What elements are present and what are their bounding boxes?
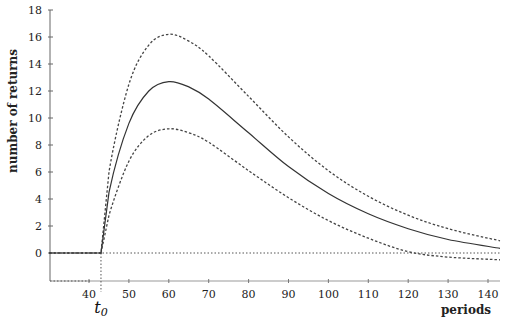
series xyxy=(49,34,500,260)
x-tick-label: 50 xyxy=(122,288,136,301)
expected-returns-curve xyxy=(49,81,500,253)
x-tick-label: 130 xyxy=(438,288,459,301)
y-tick-label: 12 xyxy=(28,85,42,98)
x-tick-label: 70 xyxy=(202,288,216,301)
x-tick-label: 100 xyxy=(318,288,339,301)
x-tick-label: 60 xyxy=(162,288,176,301)
t0-label: t0 xyxy=(94,298,107,319)
ticks: 0246810121416184050607080901001101201301… xyxy=(28,4,499,301)
y-tick-label: 6 xyxy=(35,166,42,179)
x-axis-title: periods xyxy=(441,303,491,317)
x-tick-label: 90 xyxy=(282,288,296,301)
axes xyxy=(50,10,500,292)
y-tick-label: 10 xyxy=(28,112,42,125)
upper-bound-curve xyxy=(49,34,500,253)
y-tick-label: 14 xyxy=(28,58,42,71)
y-axis-title: number of returns xyxy=(6,49,20,173)
y-tick-label: 0 xyxy=(35,247,42,260)
returns-chart: 0246810121416184050607080901001101201301… xyxy=(0,0,514,320)
y-tick-label: 4 xyxy=(35,193,42,206)
x-tick-label: 80 xyxy=(242,288,256,301)
t0-subscript: 0 xyxy=(101,306,108,319)
x-tick-label: 110 xyxy=(358,288,379,301)
y-tick-label: 16 xyxy=(28,31,42,44)
labels: number of returnsperiodst0 xyxy=(6,49,491,319)
y-tick-label: 2 xyxy=(35,220,42,233)
y-tick-label: 8 xyxy=(35,139,42,152)
x-tick-label: 120 xyxy=(398,288,419,301)
y-tick-label: 18 xyxy=(28,4,42,17)
lower-bound-curve xyxy=(101,129,500,260)
x-tick-label: 140 xyxy=(478,288,499,301)
